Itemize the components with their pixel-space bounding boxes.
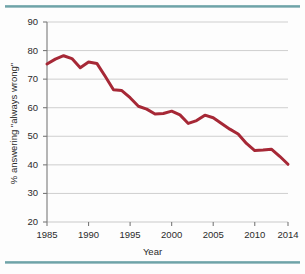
top-divider-rule <box>5 5 300 8</box>
x-tick-label: 2014 <box>268 229 305 240</box>
gridlines <box>47 22 288 222</box>
x-tick-label: 1985 <box>27 229 67 240</box>
y-tick-label: 70 <box>18 73 38 84</box>
y-tick-label: 80 <box>18 45 38 56</box>
tick-marks <box>43 22 288 226</box>
y-tick-label: 50 <box>18 130 38 141</box>
x-tick-label: 1995 <box>110 229 150 240</box>
chart-figure: 2030405060708090 19851990199520002005201… <box>0 0 305 274</box>
x-axis-title: Year <box>143 246 162 257</box>
line-chart: 2030405060708090 19851990199520002005201… <box>0 10 305 258</box>
y-axis-title: % answering "always wrong" <box>8 49 19 199</box>
x-axis-title-wrap: Year <box>0 246 305 257</box>
y-tick-label: 60 <box>18 102 38 113</box>
series-line-always-wrong <box>47 56 288 165</box>
y-tick-label: 40 <box>18 159 38 170</box>
y-tick-label: 30 <box>18 187 38 198</box>
plot-canvas <box>0 10 305 258</box>
bottom-divider-rule <box>5 261 300 264</box>
y-tick-label: 90 <box>18 16 38 27</box>
x-tick-label: 1990 <box>69 229 109 240</box>
x-tick-label: 2005 <box>193 229 233 240</box>
y-tick-label: 20 <box>18 216 38 227</box>
x-tick-label: 2000 <box>152 229 192 240</box>
